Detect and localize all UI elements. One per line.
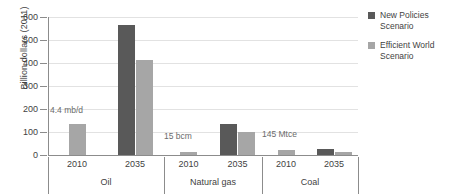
bar-gas-2035-new-policies[interactable] — [220, 124, 237, 155]
annotation-oil-2010: 4.4 mb/d — [50, 106, 83, 115]
bar-chart: Billion dollars (2011) 600 500 400 300 2… — [0, 0, 451, 196]
x-label-coal-2010: 2010 — [262, 157, 310, 171]
legend-item-efficient-world[interactable]: Efficient World Scenario — [368, 40, 451, 61]
y-tick-mark — [40, 17, 47, 18]
y-axis-tick-labels: 600 500 400 300 200 100 0 — [0, 0, 38, 196]
x-labels-gas: 2010 2035 — [164, 157, 262, 171]
x-label-coal-2035: 2035 — [310, 157, 358, 171]
legend-label-new-policies: New Policies Scenario — [380, 10, 451, 31]
bar-cell-gas-2035 — [213, 17, 262, 155]
group-separator-right — [358, 157, 359, 194]
group-label-oil: Oil — [48, 172, 164, 194]
y-tick-400: 400 — [0, 59, 38, 68]
y-tick-mark — [40, 63, 47, 64]
x-label-gas-2010: 2010 — [164, 157, 213, 171]
group-separator-oil-gas — [164, 157, 165, 194]
bar-groups: 4.4 mb/d 15 bcm 145 Mtce — [48, 17, 358, 155]
bar-group-natural-gas: 15 bcm — [164, 17, 262, 155]
x-axis-labels: 2010 2035 2010 2035 2010 2035 — [48, 157, 358, 171]
y-tick-mark — [40, 155, 47, 156]
y-tick-500: 500 — [0, 36, 38, 45]
bar-oil-2010-efficient-world[interactable] — [69, 124, 86, 155]
legend-item-new-policies[interactable]: New Policies Scenario — [368, 10, 451, 31]
group-separator-gas-coal — [262, 157, 263, 194]
y-tick-mark — [40, 40, 47, 41]
y-tick-600: 600 — [0, 13, 38, 22]
y-tick-mark — [40, 86, 47, 87]
bar-cell-coal-2010: 145 Mtce — [262, 17, 310, 155]
y-tick-200: 200 — [0, 105, 38, 114]
bar-cell-coal-2035 — [310, 17, 358, 155]
bar-group-coal: 145 Mtce — [262, 17, 358, 155]
bar-cell-oil-2010: 4.4 mb/d — [48, 17, 106, 155]
legend-swatch-icon-new-policies — [368, 12, 375, 19]
group-label-gas: Natural gas — [164, 172, 262, 194]
legend-label-efficient-world: Efficient World Scenario — [380, 40, 451, 61]
bar-cell-oil-2035 — [106, 17, 164, 155]
x-labels-coal: 2010 2035 — [262, 157, 358, 171]
legend-swatch-icon-efficient-world — [368, 42, 375, 49]
group-separator-left — [48, 157, 49, 194]
group-label-coal: Coal — [262, 172, 358, 194]
x-axis-line — [48, 155, 358, 156]
bar-cell-gas-2010: 15 bcm — [164, 17, 213, 155]
y-tick-300: 300 — [0, 82, 38, 91]
annotation-gas-2010: 15 bcm — [164, 132, 192, 141]
x-label-gas-2035: 2035 — [213, 157, 262, 171]
bar-gas-2035-efficient-world[interactable] — [238, 132, 255, 155]
legend: New Policies Scenario Efficient World Sc… — [368, 10, 451, 70]
x-axis-group-labels: Oil Natural gas Coal — [48, 172, 358, 194]
bar-group-oil: 4.4 mb/d — [48, 17, 164, 155]
bar-oil-2035-efficient-world[interactable] — [136, 60, 153, 155]
bar-oil-2035-new-policies[interactable] — [118, 25, 135, 155]
y-tick-mark — [40, 132, 47, 133]
x-label-oil-2035: 2035 — [106, 157, 164, 171]
annotation-coal-2010: 145 Mtce — [262, 130, 297, 139]
x-label-oil-2010: 2010 — [48, 157, 106, 171]
y-tick-100: 100 — [0, 128, 38, 137]
y-tick-0: 0 — [0, 151, 38, 160]
y-tick-mark — [40, 109, 47, 110]
x-labels-oil: 2010 2035 — [48, 157, 164, 171]
